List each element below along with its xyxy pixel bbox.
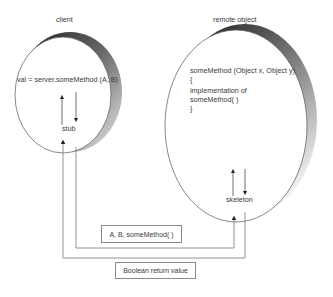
remote-code-line: implementation of	[190, 86, 295, 95]
skeleton-label: skeleton	[226, 195, 253, 204]
remote-code-block: someMethod (Object x, Object y) { implem…	[190, 66, 295, 113]
stub-label: stub	[62, 124, 76, 133]
client-circle	[15, 37, 111, 153]
client-call-line: val = server.someMethod (A, B)	[17, 75, 118, 84]
remote-code-line: someMethod( )	[190, 95, 295, 104]
remote-object-title: remote object	[213, 15, 257, 24]
response-message-box: Boolean return value	[115, 262, 196, 279]
remote-object-circle	[165, 30, 307, 222]
remote-code-line: someMethod (Object x, Object y)	[190, 66, 295, 75]
remote-code-line: {	[190, 75, 295, 84]
rmi-diagram-graphics	[0, 0, 333, 297]
client-title: client	[56, 15, 73, 24]
remote-code-line: }	[190, 104, 295, 113]
request-message-box: A, B, someMethod( )	[101, 225, 182, 243]
